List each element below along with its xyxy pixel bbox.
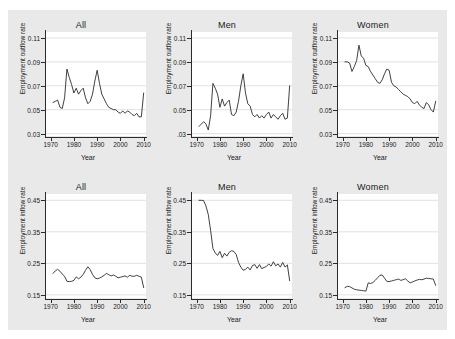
y-tick-label: 0.03 xyxy=(12,130,40,137)
y-tick-mark xyxy=(333,86,337,87)
x-axis-line xyxy=(337,299,439,300)
y-tick-mark xyxy=(333,62,337,63)
panel-row-inflow: AllEmployment inflow rateYear0.150.250.3… xyxy=(8,172,447,332)
x-tick-label: 2010 xyxy=(421,303,451,310)
panel-men-inflow: MenEmployment inflow rateYear0.150.250.3… xyxy=(154,172,300,332)
x-tick-mark xyxy=(290,300,291,303)
panel-all-outflow: AllEmployment outflow rateYear0.030.050.… xyxy=(8,10,154,170)
panel-women-outflow: WomenEmployment outflow rateYear0.030.05… xyxy=(300,10,446,170)
y-tick-mark xyxy=(333,263,337,264)
x-tick-mark xyxy=(74,138,75,141)
y-tick-mark xyxy=(333,232,337,233)
x-axis-line xyxy=(45,137,147,138)
y-tick-label: 0.25 xyxy=(12,260,40,267)
x-axis-line xyxy=(337,137,439,138)
y-tick-label: 0.05 xyxy=(12,106,40,113)
x-tick-mark xyxy=(51,300,52,303)
panel-title: All xyxy=(8,182,154,192)
y-tick-label: .03 xyxy=(158,130,186,137)
x-tick-mark xyxy=(366,300,367,303)
y-axis-label: Employment inflow rate xyxy=(19,171,26,271)
x-axis-line xyxy=(191,299,293,300)
y-tick-mark xyxy=(41,200,45,201)
x-tick-mark xyxy=(243,300,244,303)
data-series-line xyxy=(345,275,436,291)
x-tick-mark xyxy=(220,138,221,141)
panel-title: Men xyxy=(154,20,300,30)
data-series-line xyxy=(199,200,290,280)
data-series-line xyxy=(345,45,436,112)
y-tick-label: 0.45 xyxy=(304,197,332,204)
x-tick-mark xyxy=(366,138,367,141)
x-tick-mark xyxy=(97,300,98,303)
y-tick-label: 0.35 xyxy=(304,228,332,235)
figure-canvas: AllEmployment outflow rateYear0.030.050.… xyxy=(0,0,455,339)
panel-title: Men xyxy=(154,182,300,192)
y-tick-label: 0.25 xyxy=(304,260,332,267)
plot-area xyxy=(338,194,438,298)
y-tick-mark xyxy=(333,200,337,201)
x-tick-mark xyxy=(120,138,121,141)
y-tick-mark xyxy=(187,38,191,39)
y-tick-label: 0.07 xyxy=(12,82,40,89)
y-tick-mark xyxy=(333,110,337,111)
y-tick-label: 0.03 xyxy=(304,130,332,137)
x-axis-label: Year xyxy=(38,316,138,323)
y-tick-label: 0.09 xyxy=(304,58,332,65)
y-tick-label: 0.35 xyxy=(12,228,40,235)
y-tick-label: 0.45 xyxy=(158,197,186,204)
y-tick-mark xyxy=(41,110,45,111)
y-tick-mark xyxy=(41,38,45,39)
x-axis-label: Year xyxy=(184,316,284,323)
y-tick-label: 0.11 xyxy=(12,34,40,41)
x-tick-mark xyxy=(266,138,267,141)
y-tick-mark xyxy=(333,134,337,135)
plot-area xyxy=(46,194,146,298)
y-tick-label: 0.25 xyxy=(158,260,186,267)
y-tick-label: 0.07 xyxy=(304,82,332,89)
y-tick-mark xyxy=(187,86,191,87)
data-series-line xyxy=(199,74,290,130)
y-tick-mark xyxy=(333,295,337,296)
panel-men-outflow: MenEmployment outflow rateYear.030.050.0… xyxy=(154,10,300,170)
x-tick-mark xyxy=(266,300,267,303)
x-tick-mark xyxy=(97,138,98,141)
y-tick-mark xyxy=(41,62,45,63)
y-tick-label: 0.15 xyxy=(158,291,186,298)
x-axis-line xyxy=(45,299,147,300)
x-axis-line xyxy=(191,137,293,138)
x-axis-label: Year xyxy=(330,316,430,323)
plot-area xyxy=(338,32,438,136)
panel-all-inflow: AllEmployment inflow rateYear0.150.250.3… xyxy=(8,172,154,332)
y-tick-mark xyxy=(41,263,45,264)
data-series-line xyxy=(53,267,144,288)
y-tick-mark xyxy=(187,232,191,233)
x-tick-mark xyxy=(51,138,52,141)
y-tick-mark xyxy=(41,295,45,296)
x-tick-mark xyxy=(144,138,145,141)
plot-area xyxy=(192,32,292,136)
x-tick-mark xyxy=(290,138,291,141)
x-tick-mark xyxy=(436,300,437,303)
x-tick-mark xyxy=(243,138,244,141)
y-tick-label: 0.11 xyxy=(158,34,186,41)
y-tick-mark xyxy=(41,86,45,87)
y-tick-label: 0.15 xyxy=(12,291,40,298)
y-tick-mark xyxy=(187,134,191,135)
y-tick-label: 0.05 xyxy=(158,106,186,113)
x-tick-mark xyxy=(412,138,413,141)
y-tick-label: 0.05 xyxy=(304,106,332,113)
y-tick-mark xyxy=(333,38,337,39)
x-tick-mark xyxy=(197,138,198,141)
y-tick-label: 0.35 xyxy=(158,228,186,235)
y-tick-mark xyxy=(187,110,191,111)
x-axis-label: Year xyxy=(38,154,138,161)
panel-title: Women xyxy=(300,182,446,192)
y-axis-label: Employment inflow rate xyxy=(165,171,172,271)
x-tick-mark xyxy=(74,300,75,303)
x-axis-label: Year xyxy=(184,154,284,161)
x-tick-mark xyxy=(389,138,390,141)
x-tick-mark xyxy=(412,300,413,303)
y-tick-label: 0.11 xyxy=(304,34,332,41)
y-tick-mark xyxy=(187,62,191,63)
